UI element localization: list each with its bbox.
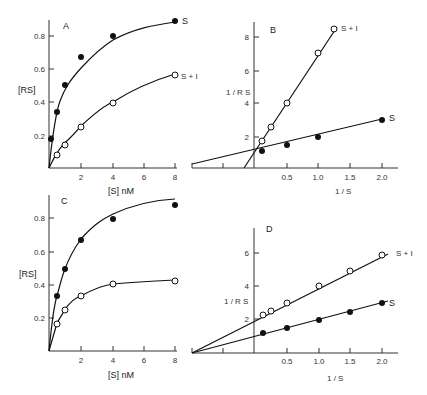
series-si-markers	[54, 278, 178, 327]
y-axis-label: [RS]	[18, 85, 36, 95]
panel-b: 8 6 4 2 0.5 1.0 1.5 2.0 B 1 / R S 1 / S …	[192, 22, 398, 196]
y-tick-label: 0.6	[34, 65, 46, 74]
line-si	[244, 27, 337, 168]
figure: 0.8 0.6 0.4 0.2 2 4 6 8 A [RS] [S] nM S …	[0, 0, 427, 395]
y-tick-label: 0.4	[34, 98, 46, 107]
y-tick-label: 0.2	[34, 314, 46, 323]
x-axis-label: [S] nM	[108, 186, 134, 196]
curve-si	[49, 280, 175, 351]
panel-c: 0.8 0.6 0.4 0.2 2 4 6 8 C [RS] [S] nM	[19, 195, 178, 380]
x-tick-label: 1.5	[344, 357, 356, 366]
series-label-s: S	[182, 16, 188, 26]
y-tick-label: 0.2	[34, 132, 46, 141]
y-axis-label: 1 / R S	[224, 297, 248, 306]
series-label-si: S + I	[396, 249, 413, 258]
y-tick-label: 0.6	[34, 248, 46, 257]
x-tick-label: 0.5	[281, 357, 293, 366]
panel-a: 0.8 0.6 0.4 0.2 2 4 6 8 A [RS] [S] nM S …	[18, 16, 198, 196]
x-tick-label: 4	[111, 173, 116, 182]
line-s	[192, 301, 388, 353]
x-tick-label: 4	[111, 356, 116, 365]
y-tick-label: 0.4	[34, 281, 46, 290]
x-axis-label: 1 / S	[327, 374, 343, 383]
panel-label: D	[266, 224, 273, 234]
y-axis-label: [RS]	[19, 269, 37, 279]
x-tick-label: 0.5	[281, 173, 293, 182]
x-tick-label: 8	[173, 356, 178, 365]
series-label-s: S	[389, 113, 395, 123]
x-tick-label: 1.5	[344, 173, 356, 182]
series-label-si: S + I	[181, 72, 198, 81]
line-s	[192, 119, 382, 164]
panel-label: B	[270, 25, 276, 35]
x-tick-label: 6	[142, 356, 147, 365]
x-axis-label: [S] nM	[108, 370, 134, 380]
x-tick-label: 2.0	[376, 173, 388, 182]
y-tick-label: 2	[245, 133, 250, 142]
y-axis-label: 1 / R S	[226, 88, 250, 97]
x-tick-label: 1.0	[313, 357, 325, 366]
curve-si	[49, 74, 175, 168]
y-tick-label: 6	[245, 67, 250, 76]
y-tick-label: 4	[245, 282, 250, 291]
x-tick-label: 8	[173, 173, 178, 182]
x-axis-label: 1 / S	[335, 187, 351, 196]
y-tick-label: 4	[245, 99, 250, 108]
series-label-si: S + I	[341, 24, 358, 33]
y-tick-label: 8	[245, 33, 250, 42]
y-tick-label: 0.8	[34, 214, 46, 223]
x-tick-label: 1.0	[312, 173, 324, 182]
panel-label: C	[61, 196, 68, 206]
x-tick-label: 6	[142, 173, 147, 182]
x-tick-label: 2	[79, 356, 84, 365]
panel-d: 6 4 2 0.5 1.0 1.5 2.0 D 1 / R S 1 / S S …	[192, 224, 413, 383]
panel-label: A	[63, 21, 69, 31]
series-si-markers	[54, 72, 178, 158]
series-si-markers	[260, 252, 385, 318]
x-tick-label: 2.0	[376, 357, 388, 366]
y-tick-label: 0.8	[34, 32, 46, 41]
y-tick-label: 2	[245, 315, 250, 324]
x-tick-label: 2	[79, 173, 84, 182]
series-label-s: S	[389, 298, 395, 308]
y-tick-label: 6	[245, 249, 250, 258]
